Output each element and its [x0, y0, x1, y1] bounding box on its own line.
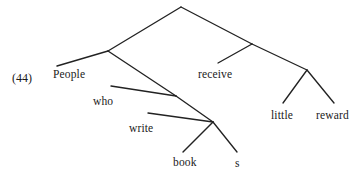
tree-edge-rel-cl-to-who — [111, 86, 176, 96]
tree-leaf-s: s — [235, 157, 240, 170]
tree-leaf-book: book — [173, 156, 197, 169]
tree-edge-object-to-s — [213, 122, 237, 152]
tree-leaf-reward: reward — [316, 109, 349, 122]
syntax-tree-figure: (44) Peoplewhowritebooksreceivelittlerew… — [0, 0, 358, 180]
tree-edge-object-to-book — [183, 122, 213, 152]
tree-leaf-write: write — [129, 122, 153, 135]
tree-edge-obj-np-to-reward — [307, 70, 334, 103]
tree-leaf-people: People — [53, 68, 85, 81]
tree-edge-root-to-subject — [108, 7, 181, 51]
tree-edge-obj-np-to-little — [283, 70, 307, 103]
tree-edge-root-to-predicate — [181, 7, 252, 44]
tree-leaf-little: little — [271, 109, 293, 122]
tree-edge-predicate-to-obj-np — [252, 44, 307, 70]
tree-edge-predicate-to-receive — [218, 44, 252, 63]
tree-leaf-receive: receive — [198, 68, 232, 81]
tree-leaf-who: who — [93, 95, 113, 108]
tree-edges — [0, 0, 358, 180]
tree-edge-subject-to-people — [57, 51, 108, 66]
tree-edge-subject-to-rel-cl — [108, 51, 176, 96]
